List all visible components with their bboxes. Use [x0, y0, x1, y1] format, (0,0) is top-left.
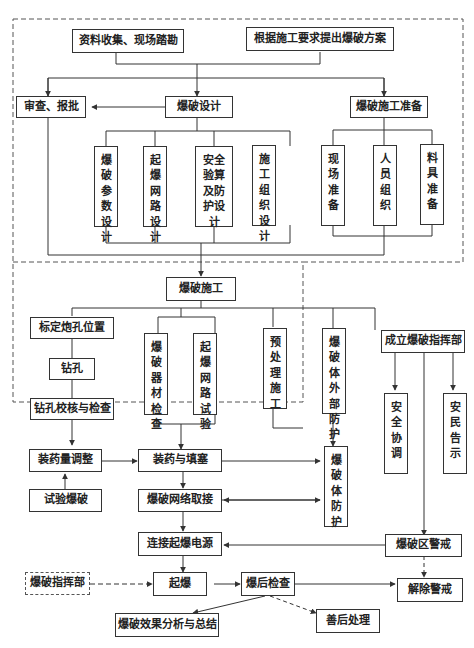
design-item-safety: 安全验算及防护设计: [195, 146, 233, 227]
network-connect-box: 爆破网络取接: [138, 489, 222, 512]
command-post-box: 爆破指挥部: [25, 572, 90, 595]
prep-item-materials: 料具准备: [420, 144, 444, 225]
prep-item-label: 现场准备: [322, 146, 344, 214]
charge-stem-box: 装药与填塞: [138, 449, 222, 472]
prep-item-personnel: 人员组织: [373, 145, 397, 226]
zone-alert-box: 爆破区警戒: [385, 534, 462, 557]
safety-coord-box: 安全协调: [384, 393, 408, 474]
body-protection-box: 爆破体防护: [324, 446, 348, 527]
drill-check-box: 钻孔校核与检查: [30, 398, 114, 420]
propose-plan-box: 根据施工要求提出爆破方案: [246, 27, 394, 51]
connect-power-box: 连接起爆电源: [138, 532, 222, 556]
prep-item-label: 人员组织: [374, 146, 396, 214]
aftermath-box: 善后处理: [316, 609, 380, 633]
review-approve-box: 审查、报批: [16, 96, 86, 118]
post-check-box: 爆后检查: [241, 572, 295, 596]
pretreatment-label: 预处理施工: [264, 329, 286, 412]
public-notice-box: 安民告示: [443, 393, 467, 474]
charge-adjust-box: 装药量调整: [29, 449, 102, 472]
drilling-box: 钻孔: [49, 358, 95, 380]
test-blast-box: 试验爆破: [29, 489, 102, 512]
mark-holes-box: 标定炮孔位置: [30, 317, 114, 339]
lift-alert-box: 解除警戒: [397, 578, 463, 602]
design-item-params: 爆破参数设计: [94, 146, 118, 227]
detonate-box: 起爆: [153, 572, 207, 596]
public-notice-label: 安民告示: [444, 394, 466, 462]
design-item-label: 爆破参数设计: [95, 147, 117, 245]
prep-item-label: 料具准备: [421, 145, 443, 213]
safety-coord-label: 安全协调: [385, 394, 407, 462]
body-protection-label: 爆破体防护: [325, 447, 347, 530]
command-establish-box: 成立爆破指挥部: [381, 330, 465, 353]
design-item-label: 起爆网路设计: [144, 147, 166, 245]
check-item-label: 爆破器材检查: [145, 334, 167, 432]
design-item-label: 安全验算及防护设计: [196, 147, 232, 230]
check-item-network-test: 起爆网路试验: [193, 333, 217, 415]
external-protection-box: 爆破体外部防护: [322, 328, 346, 414]
prep-item-site: 现场准备: [321, 145, 345, 226]
external-protection-label: 爆破体外部防护: [323, 329, 345, 443]
design-item-organization: 施工组织设计: [252, 145, 276, 226]
design-item-network: 起爆网路设计: [143, 146, 167, 227]
check-item-materials: 爆破器材检查: [144, 333, 168, 415]
check-item-label: 起爆网路试验: [194, 334, 216, 432]
blast-construction-box: 爆破施工: [166, 277, 236, 301]
analysis-box: 爆破效果分析与总结: [115, 613, 219, 637]
design-item-label: 施工组织设计: [253, 146, 275, 244]
pretreatment-box: 预处理施工: [263, 328, 287, 409]
blast-design-box: 爆破设计: [165, 96, 233, 118]
blast-prep-box: 爆破施工准备: [350, 96, 428, 118]
survey-box: 资料收集、现场踏勘: [72, 29, 184, 53]
